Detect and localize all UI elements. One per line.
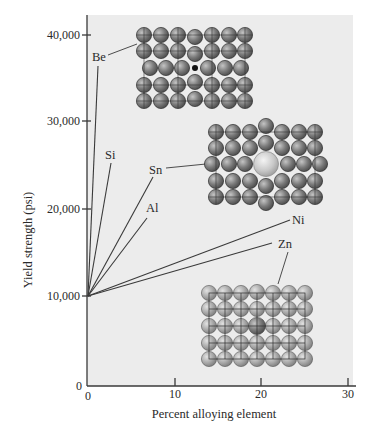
x-tick-label: 0 xyxy=(85,389,91,403)
x-tick-label: 10 xyxy=(169,387,181,401)
label-sn: Sn xyxy=(149,163,163,177)
x-tick-label: 30 xyxy=(342,387,354,401)
y-tick-labels: 40,000 30,000 20,000 10,000 0 xyxy=(47,28,82,393)
y-tick-label: 20,000 xyxy=(47,202,80,216)
y-tick-label: 0 xyxy=(76,379,82,393)
y-axis-title: Yield strength (psi) xyxy=(21,192,35,289)
label-be: Be xyxy=(92,50,106,64)
yield-strength-chart: 40,000 30,000 20,000 10,000 0 0 10 20 30… xyxy=(0,0,367,437)
x-axis-title: Percent alloying element xyxy=(152,407,277,421)
label-al: Al xyxy=(146,201,159,215)
x-tick-labels: 0 10 20 30 xyxy=(85,387,354,403)
interstitial-atom xyxy=(192,65,198,71)
y-tick-label: 40,000 xyxy=(47,28,80,42)
lattice-large-substitutional-illustration xyxy=(204,118,327,210)
large-substitutional-atom xyxy=(254,152,279,177)
x-tick-label: 20 xyxy=(255,387,267,401)
label-zn: Zn xyxy=(278,237,293,251)
label-si: Si xyxy=(105,148,116,162)
y-tick-label: 30,000 xyxy=(47,114,80,128)
y-tick-label: 10,000 xyxy=(47,289,80,303)
label-ni: Ni xyxy=(292,213,305,227)
